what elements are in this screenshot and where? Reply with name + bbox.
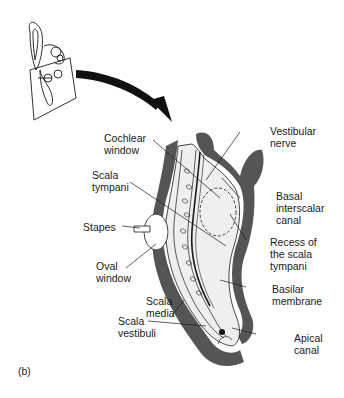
label-basal-interscalar-canal: Basal interscalar canal <box>276 190 324 226</box>
ear-inset-icon <box>29 22 76 120</box>
label-vestibular-nerve: Vestibular nerve <box>270 125 316 149</box>
label-cochlear-window: Cochlear window <box>104 132 146 156</box>
label-stapes: Stapes <box>83 221 116 233</box>
label-recess-scala-tympani: Recess of the scala tympani <box>270 236 317 272</box>
arrow-icon <box>76 70 172 122</box>
label-apical-canal: Apical canal <box>294 332 323 356</box>
panel-label: (b) <box>18 365 31 377</box>
label-scala-vestibuli: Scala vestibuli <box>118 315 156 339</box>
label-basilar-membrane: Basilar membrane <box>272 283 322 307</box>
label-oval-window: Oval window <box>96 260 131 284</box>
label-scala-tympani: Scala tympani <box>92 169 129 193</box>
